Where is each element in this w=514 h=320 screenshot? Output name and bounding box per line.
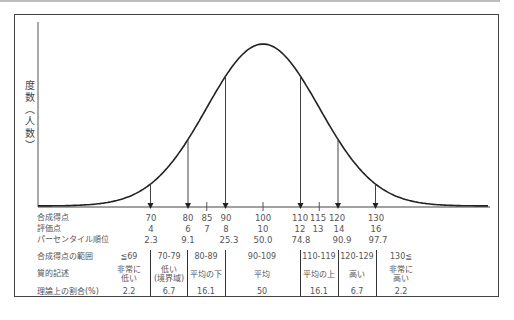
arrow-down-icon [335,203,341,209]
arrow-down-icon [223,203,229,209]
range-cell: 130≦ [390,252,412,261]
desc-line: (境界域) [154,274,184,283]
scaled-value: 6 [185,224,190,234]
desc-line: 高い [349,270,365,279]
row-label-scaled: 評価点 [37,224,61,234]
desc-line: 平均 [254,270,270,279]
desc-line: 平均の上 [303,270,335,279]
scaled-value: 12 [295,224,306,234]
desc-line: 低い [154,265,184,274]
y-axis-label-char: 度 [24,80,36,92]
column-divider [187,250,188,296]
row-label-desc: 質的記述 [37,269,69,279]
column-divider [300,250,301,296]
row-label-pct: 理論上の割合(%) [37,287,99,297]
desc-cell: 平均の下 [190,270,222,279]
composite-value: 90 [221,213,232,223]
pct-cell: 16.1 [197,287,215,296]
composite-value: 130 [368,213,384,223]
desc-cell: 平均の上 [303,270,335,279]
composite-value: 110 [292,213,308,223]
pct-cell: 50 [257,287,267,296]
y-axis-label-char: 数 [24,92,36,104]
composite-value: 115 [310,213,326,223]
column-divider [225,250,226,296]
arrow-down-icon [298,203,304,209]
desc-line: 高い [389,274,413,283]
percentile-value: 90.9 [333,235,352,245]
y-axis-label-char: ︵ [24,104,36,116]
desc-cell: 平均 [254,270,270,279]
pct-cell: 2.2 [395,287,408,296]
pct-cell: 16.1 [310,287,328,296]
composite-value: 120 [329,213,345,223]
composite-value: 70 [146,213,157,223]
pct-cell: 2.2 [123,287,136,296]
arrow-down-icon [373,203,379,209]
score-markers [148,76,379,211]
normal-curve [38,44,488,206]
scaled-value: 4 [148,224,153,234]
desc-line: 平均の下 [190,270,222,279]
range-cell: ≦69 [121,252,138,261]
row-label-composite: 合成得点 [37,213,69,223]
percentile-value: 50.0 [254,235,273,245]
percentile-value: 97.7 [369,235,388,245]
scaled-value: 13 [313,224,324,234]
column-divider [150,250,151,296]
arrow-down-icon [148,203,154,209]
composite-value: 85 [202,213,213,223]
pct-cell: 6.7 [351,287,364,296]
arrow-down-icon [185,203,191,209]
scaled-value: 7 [204,224,209,234]
percentile-value: 74.8 [292,235,311,245]
desc-cell: 高い [349,270,365,279]
range-cell: 120-129 [340,252,373,261]
scaled-value: 8 [223,224,228,234]
desc-cell: 非常に 低い [117,265,141,283]
percentile-value: 2.3 [144,235,158,245]
row-label-percentile: パーセンタイル順位 [37,235,109,245]
pct-cell: 6.7 [163,287,176,296]
composite-value: 100 [255,213,271,223]
y-axis-label-char: 人 [24,116,36,128]
desc-line: 非常に [117,265,141,274]
percentile-value: 25.3 [220,235,239,245]
column-divider [338,250,339,296]
range-cell: 110-119 [302,252,335,261]
y-axis-label-char: ︶ [24,140,36,152]
range-cell: 70-79 [157,252,180,261]
composite-value: 80 [183,213,194,223]
desc-line: 低い [117,274,141,283]
y-axis-label: 度 数 ︵ 人 数 ︶ [24,80,36,152]
y-axis-label-char: 数 [24,128,36,140]
row-label-range: 合成得点の範囲 [37,252,93,262]
percentile-value: 9.1 [181,235,195,245]
scaled-value: 14 [334,224,345,234]
desc-cell: 非常に 高い [389,265,413,283]
range-cell: 90-109 [248,252,276,261]
desc-cell: 低い (境界域) [154,265,184,283]
range-cell: 80-89 [194,252,217,261]
column-divider [376,250,377,296]
desc-line: 非常に [389,265,413,274]
scaled-value: 16 [371,224,382,234]
scaled-value: 10 [258,224,269,234]
